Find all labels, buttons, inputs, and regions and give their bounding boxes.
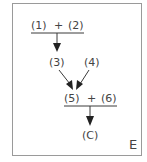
node-3: (3) <box>49 57 65 69</box>
plus-sign: + <box>87 93 96 105</box>
node-1: (1) <box>31 20 47 32</box>
node-2: (2) <box>68 20 84 32</box>
corner-label: E <box>129 139 137 151</box>
node-c: (C) <box>82 130 98 142</box>
arrow-diag-icon <box>66 80 73 90</box>
arrow-down-icon <box>86 116 94 126</box>
node-6: (6) <box>101 93 117 105</box>
arrow-down-icon <box>53 43 61 52</box>
node-4: (4) <box>84 57 100 69</box>
plus-sign: + <box>54 20 63 32</box>
node-5: (5) <box>64 93 80 105</box>
